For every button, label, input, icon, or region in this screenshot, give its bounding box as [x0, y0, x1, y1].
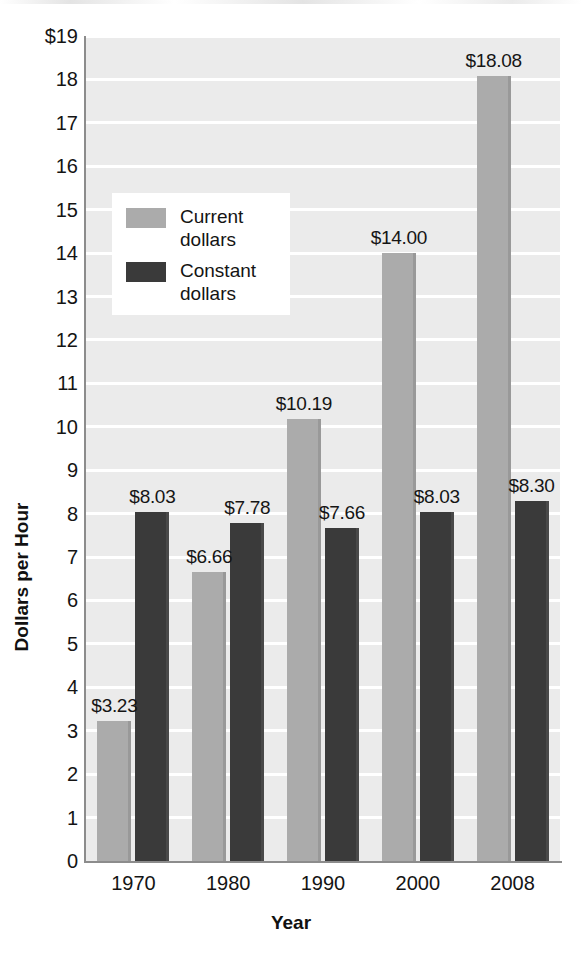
y-axis-tick-label: 18	[0, 68, 78, 91]
x-axis-tick-label: 1980	[178, 872, 278, 895]
legend-swatch-icon-constant	[126, 262, 166, 282]
y-axis-tick-label: 1	[0, 806, 78, 829]
bar-current-1990	[287, 419, 321, 861]
y-axis-tick-label: $19	[0, 25, 78, 48]
bar-constant-2000	[420, 512, 454, 861]
y-axis-tick-label: 16	[0, 155, 78, 178]
y-axis-tick-label: 2	[0, 763, 78, 786]
bar-value-label: $3.23	[69, 695, 159, 717]
x-axis-tick-label: 2000	[368, 872, 468, 895]
y-axis-tick-label: 14	[0, 242, 78, 265]
y-axis-tick-label: 3	[0, 719, 78, 742]
y-axis-tick-label: 17	[0, 111, 78, 134]
bar-current-1980	[192, 572, 226, 861]
bar-current-2008	[477, 76, 511, 861]
legend-swatch-icon-current	[126, 208, 166, 228]
y-axis-tick-label: 10	[0, 415, 78, 438]
bar-current-1970	[97, 721, 131, 861]
y-axis-tick-label: 0	[0, 850, 78, 873]
x-axis-tick-label: 1970	[83, 872, 183, 895]
y-axis-tick-label: 15	[0, 198, 78, 221]
y-axis-tick-label: 11	[0, 372, 78, 395]
legend-item-current-dollars: Current dollars	[126, 205, 243, 251]
bar-value-label: $7.66	[297, 502, 387, 524]
x-axis-tick-label: 1990	[273, 872, 373, 895]
y-axis-tick-label: 12	[0, 328, 78, 351]
bar-chart: $191817161514131211109876543210 19701980…	[0, 0, 582, 963]
bar-value-label: $10.19	[259, 393, 349, 415]
x-axis-title: Year	[0, 912, 582, 934]
bar-value-label: $18.08	[449, 50, 539, 72]
x-axis-tick-label: 2008	[463, 872, 563, 895]
scan-edge-artifact	[0, 0, 582, 4]
legend-item-constant-dollars: Constant dollars	[126, 259, 256, 305]
bar-constant-1980	[230, 523, 264, 861]
bar-value-label: $8.30	[487, 475, 577, 497]
bar-constant-1990	[325, 528, 359, 861]
bar-value-label: $14.00	[354, 227, 444, 249]
plot-area	[86, 36, 560, 861]
x-axis-line	[84, 861, 562, 863]
bar-value-label: $8.03	[392, 486, 482, 508]
bars-layer	[86, 36, 560, 861]
y-axis-line	[84, 36, 86, 862]
bar-value-label: $8.03	[107, 486, 197, 508]
bar-value-label: $6.66	[164, 546, 254, 568]
bar-value-label: $7.78	[202, 497, 292, 519]
legend-label-constant: Constant dollars	[180, 259, 256, 305]
bar-current-2000	[382, 253, 416, 861]
legend-label-current: Current dollars	[180, 205, 243, 251]
chart-legend: Current dollars Constant dollars	[112, 193, 290, 315]
y-axis-title: Dollars per Hour	[11, 447, 33, 707]
bar-constant-2008	[515, 501, 549, 861]
y-axis-tick-label: 13	[0, 285, 78, 308]
